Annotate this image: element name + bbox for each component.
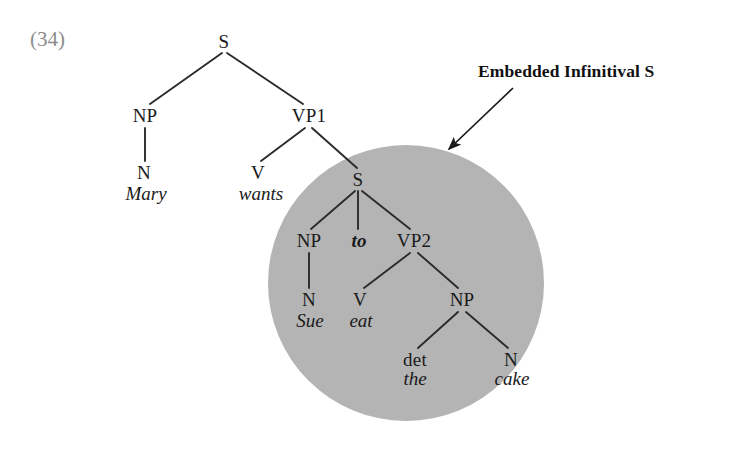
tree-edge-NP3-DET1: [418, 312, 458, 348]
tree-node-np1: NP: [133, 106, 158, 125]
tree-edge-S0-NP1: [150, 53, 222, 104]
tree-terminal-cake: cake: [495, 369, 530, 388]
tree-terminal-sue: Sue: [296, 311, 323, 330]
tree-terminal-to: to: [352, 231, 367, 250]
tree-terminal-the: the: [403, 369, 426, 388]
embedded-infinitival-s-label: Embedded Infinitival S: [478, 61, 654, 82]
tree-node-v1: V: [251, 163, 265, 182]
tree-edge-S1-NP2: [311, 191, 355, 229]
tree-terminal-wants: wants: [239, 184, 283, 203]
tree-edge-VP1-S1: [312, 128, 357, 168]
tree-node-v2: V: [353, 290, 367, 309]
tree-terminal-eat: eat: [349, 311, 372, 330]
tree-node-vp1: VP1: [292, 106, 326, 125]
tree-node-vp2: VP2: [397, 231, 431, 250]
tree-edge-VP1-V1: [261, 128, 305, 161]
tree-edge-S1-VP2: [362, 191, 410, 229]
tree-node-s1: S: [353, 170, 364, 189]
tree-terminal-mary: Mary: [125, 184, 166, 203]
example-number-label: (34): [30, 29, 65, 50]
tree-node-n1: N: [137, 163, 151, 182]
tree-edge-NP3-N3: [466, 312, 508, 348]
tree-node-n2: N: [302, 290, 316, 309]
tree-edge-VP2-NP3: [418, 253, 458, 288]
tree-node-n3: N: [504, 350, 518, 369]
tree-edge-VP2-V2: [364, 253, 410, 288]
tree-node-np2: NP: [297, 231, 322, 250]
callout-arrow-icon: [449, 88, 513, 149]
tree-edge-S0-VP1: [227, 53, 303, 104]
syntax-tree-figure: (34) SNPVP1NVSNPVP2NVNPdetNMarywantstoSu…: [0, 0, 745, 460]
tree-node-np3: NP: [450, 290, 475, 309]
tree-node-det1: det: [403, 350, 427, 369]
tree-node-s0: S: [219, 32, 230, 51]
